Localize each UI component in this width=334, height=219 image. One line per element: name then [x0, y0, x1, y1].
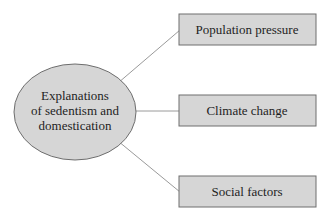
branch-social-factors: Social factors: [179, 176, 316, 207]
branch-label: Climate change: [206, 103, 287, 118]
connector-population-pressure: [118, 30, 180, 83]
center-node: Explanations of sedentism and domesticat…: [14, 64, 136, 160]
center-label-line-3: domestication: [39, 118, 112, 133]
branch-label: Social factors: [211, 184, 282, 199]
branch-label: Population pressure: [196, 22, 299, 37]
branch-climate-change: Climate change: [179, 95, 316, 126]
connector-social-factors: [118, 141, 180, 192]
branch-population-pressure: Population pressure: [179, 14, 316, 45]
center-label-line-2: of sedentism and: [31, 103, 120, 118]
diagram-canvas: Explanations of sedentism and domesticat…: [0, 0, 334, 219]
center-label-line-1: Explanations: [41, 88, 109, 103]
